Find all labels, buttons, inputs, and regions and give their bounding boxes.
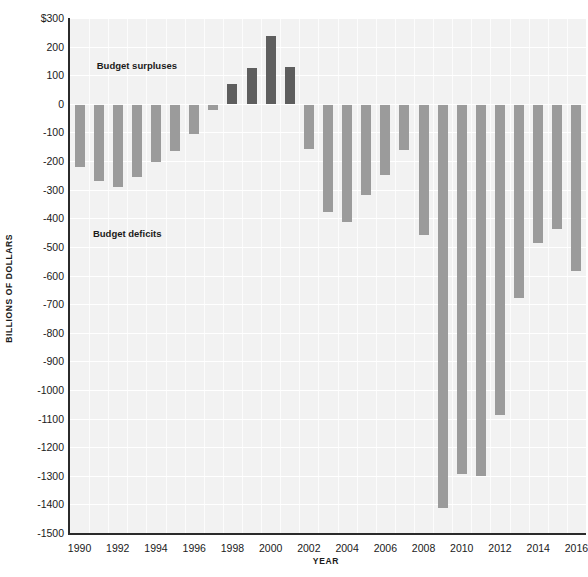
bar-2010 xyxy=(457,104,467,474)
gridline-vertical xyxy=(318,18,319,533)
gridline-vertical xyxy=(357,18,358,533)
x-tick-label: 2000 xyxy=(259,542,282,554)
plot-inner: Budget surplusesBudget deficits xyxy=(70,18,586,533)
gridline-vertical xyxy=(471,18,472,533)
y-tick-label: -1100 xyxy=(2,413,64,425)
y-tick-label: -300 xyxy=(2,184,64,196)
gridline-vertical xyxy=(261,18,262,533)
gridline-vertical xyxy=(280,18,281,533)
gridline-vertical xyxy=(490,18,491,533)
gridline-vertical xyxy=(414,18,415,533)
gridline-vertical xyxy=(452,18,453,533)
x-tick-label: 2006 xyxy=(374,542,397,554)
bar-2006 xyxy=(380,104,390,175)
x-tick-label: 2014 xyxy=(527,542,550,554)
annotation-budget-surpluses: Budget surpluses xyxy=(97,60,177,71)
y-tick-label: $300 xyxy=(2,12,64,24)
y-tick-label: -500 xyxy=(2,241,64,253)
gridline-vertical xyxy=(529,18,530,533)
gridline-vertical xyxy=(299,18,300,533)
bar-2014 xyxy=(533,104,543,243)
x-tick-label: 1998 xyxy=(221,542,244,554)
y-tick-label: -400 xyxy=(2,212,64,224)
bar-2007 xyxy=(399,104,409,150)
gridline-vertical xyxy=(433,18,434,533)
bar-2011 xyxy=(476,104,486,476)
y-axis-tick-labels: $3002001000-100-200-300-400-500-600-700-… xyxy=(0,18,64,533)
bar-1994 xyxy=(151,104,161,162)
gridline-vertical xyxy=(395,18,396,533)
bar-1991 xyxy=(94,104,104,181)
bar-2016 xyxy=(571,104,581,271)
x-tick-label: 2002 xyxy=(297,542,320,554)
bar-2000 xyxy=(266,36,276,104)
bar-1993 xyxy=(132,104,142,177)
y-tick-label: -700 xyxy=(2,298,64,310)
zero-baseline xyxy=(70,104,586,105)
bar-2009 xyxy=(438,104,448,508)
gridline-vertical xyxy=(376,18,377,533)
bar-2012 xyxy=(495,104,505,415)
bar-1990 xyxy=(75,104,85,167)
x-tick-label: 1996 xyxy=(183,542,206,554)
plot-area: Budget surplusesBudget deficits xyxy=(68,18,586,535)
x-tick-label: 1994 xyxy=(144,542,167,554)
bar-1992 xyxy=(113,104,123,187)
y-tick-label: 0 xyxy=(2,98,64,110)
y-tick-label: -600 xyxy=(2,270,64,282)
bar-1999 xyxy=(247,68,257,104)
gridline-vertical xyxy=(223,18,224,533)
x-tick-label: 2008 xyxy=(412,542,435,554)
x-tick-label: 2012 xyxy=(488,542,511,554)
gridline-vertical xyxy=(204,18,205,533)
gridline-vertical xyxy=(567,18,568,533)
x-tick-label: 2016 xyxy=(565,542,588,554)
bar-2004 xyxy=(342,104,352,222)
gridline-vertical xyxy=(548,18,549,533)
y-tick-label: 100 xyxy=(2,69,64,81)
bar-1995 xyxy=(170,104,180,151)
annotation-budget-deficits: Budget deficits xyxy=(93,228,162,239)
gridline-vertical xyxy=(127,18,128,533)
x-tick-label: 1992 xyxy=(106,542,129,554)
gridline-vertical xyxy=(108,18,109,533)
bar-2003 xyxy=(323,104,333,212)
x-tick-label: 1990 xyxy=(68,542,91,554)
x-tick-label: 2010 xyxy=(450,542,473,554)
gridline-vertical xyxy=(185,18,186,533)
bar-1998 xyxy=(227,84,237,104)
gridline-vertical xyxy=(89,18,90,533)
gridline-vertical xyxy=(166,18,167,533)
gridline-vertical xyxy=(146,18,147,533)
y-tick-label: -1300 xyxy=(2,470,64,482)
y-tick-label: -800 xyxy=(2,327,64,339)
y-tick-label: -100 xyxy=(2,126,64,138)
gridline-vertical xyxy=(510,18,511,533)
bar-2008 xyxy=(419,104,429,235)
y-tick-label: -1200 xyxy=(2,441,64,453)
bar-2013 xyxy=(514,104,524,299)
y-tick-label: -1500 xyxy=(2,527,64,539)
bar-2005 xyxy=(361,104,371,195)
y-tick-label: -1000 xyxy=(2,384,64,396)
bar-2002 xyxy=(304,104,314,149)
budget-deficit-surplus-chart: BILLIONS OF DOLLARS $3002001000-100-200-… xyxy=(0,0,588,577)
gridline-vertical xyxy=(338,18,339,533)
y-tick-label: 200 xyxy=(2,41,64,53)
bar-2015 xyxy=(552,104,562,229)
x-tick-label: 2004 xyxy=(335,542,358,554)
x-axis-title: YEAR xyxy=(68,556,584,566)
y-tick-label: -900 xyxy=(2,355,64,367)
bar-1996 xyxy=(189,104,199,135)
gridline-vertical xyxy=(242,18,243,533)
bar-2001 xyxy=(285,67,295,104)
y-tick-label: -1400 xyxy=(2,498,64,510)
x-axis-tick-labels: 1990199219941996199820002002200420062008… xyxy=(70,536,586,556)
y-tick-label: -200 xyxy=(2,155,64,167)
